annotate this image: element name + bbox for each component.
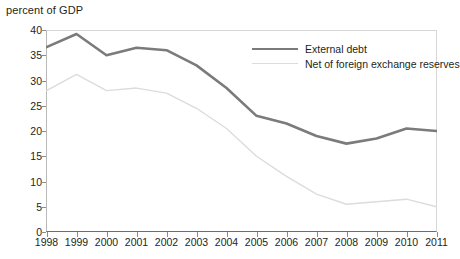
y-tick-mark: [41, 232, 46, 233]
legend-swatch-icon: [252, 63, 298, 64]
x-tick-mark: [227, 232, 228, 237]
x-tick-mark: [197, 232, 198, 237]
x-tick-label: 2003: [185, 236, 208, 248]
legend-label: Net of foreign exchange reserves: [305, 58, 460, 70]
y-tick-mark: [41, 30, 46, 31]
x-tick-label: 2002: [155, 236, 178, 248]
y-tick-label: 40: [8, 24, 42, 36]
y-tick-mark: [41, 207, 46, 208]
y-tick-label: 25: [8, 100, 42, 112]
y-tick-label: 15: [8, 150, 42, 162]
y-tick-label: 20: [8, 125, 42, 137]
y-tick-label: 5: [8, 201, 42, 213]
x-tick-mark: [377, 232, 378, 237]
x-tick-mark: [317, 232, 318, 237]
x-tick-label: 2000: [95, 236, 118, 248]
x-tick-mark: [257, 232, 258, 237]
x-tick-mark: [77, 232, 78, 237]
x-tick-mark: [347, 232, 348, 237]
x-tick-mark: [47, 232, 48, 237]
x-tick-label: 2010: [395, 236, 418, 248]
x-tick-mark: [107, 232, 108, 237]
legend-label: External debt: [305, 43, 367, 55]
x-tick-label: 2005: [245, 236, 268, 248]
x-tick-label: 2008: [335, 236, 358, 248]
x-tick-mark: [287, 232, 288, 237]
y-tick-mark: [41, 131, 46, 132]
x-tick-mark: [437, 232, 438, 237]
y-axis: 0510152025303540: [0, 0, 42, 259]
x-tick-label: 2007: [305, 236, 328, 248]
x-tick-label: 2001: [125, 236, 148, 248]
chart-legend: External debt Net of foreign exchange re…: [252, 42, 460, 72]
y-tick-mark: [41, 182, 46, 183]
y-tick-mark: [41, 81, 46, 82]
x-tick-mark: [407, 232, 408, 237]
x-tick-label: 2006: [275, 236, 298, 248]
x-tick-label: 2004: [215, 236, 238, 248]
x-tick-label: 2011: [425, 236, 448, 248]
y-tick-mark: [41, 106, 46, 107]
x-tick-mark: [137, 232, 138, 237]
x-tick-label: 2009: [365, 236, 388, 248]
legend-swatch-icon: [252, 48, 298, 50]
y-tick-label: 10: [8, 176, 42, 188]
legend-item-net-of-reserves: Net of foreign exchange reserves: [252, 57, 460, 70]
y-tick-mark: [41, 55, 46, 56]
x-tick-mark: [167, 232, 168, 237]
x-tick-label: 1998: [35, 236, 58, 248]
y-tick-mark: [41, 156, 46, 157]
y-tick-label: 30: [8, 75, 42, 87]
y-tick-label: 35: [8, 49, 42, 61]
x-tick-label: 1999: [65, 236, 88, 248]
legend-item-external-debt: External debt: [252, 42, 460, 55]
series-line-1: [47, 74, 437, 206]
